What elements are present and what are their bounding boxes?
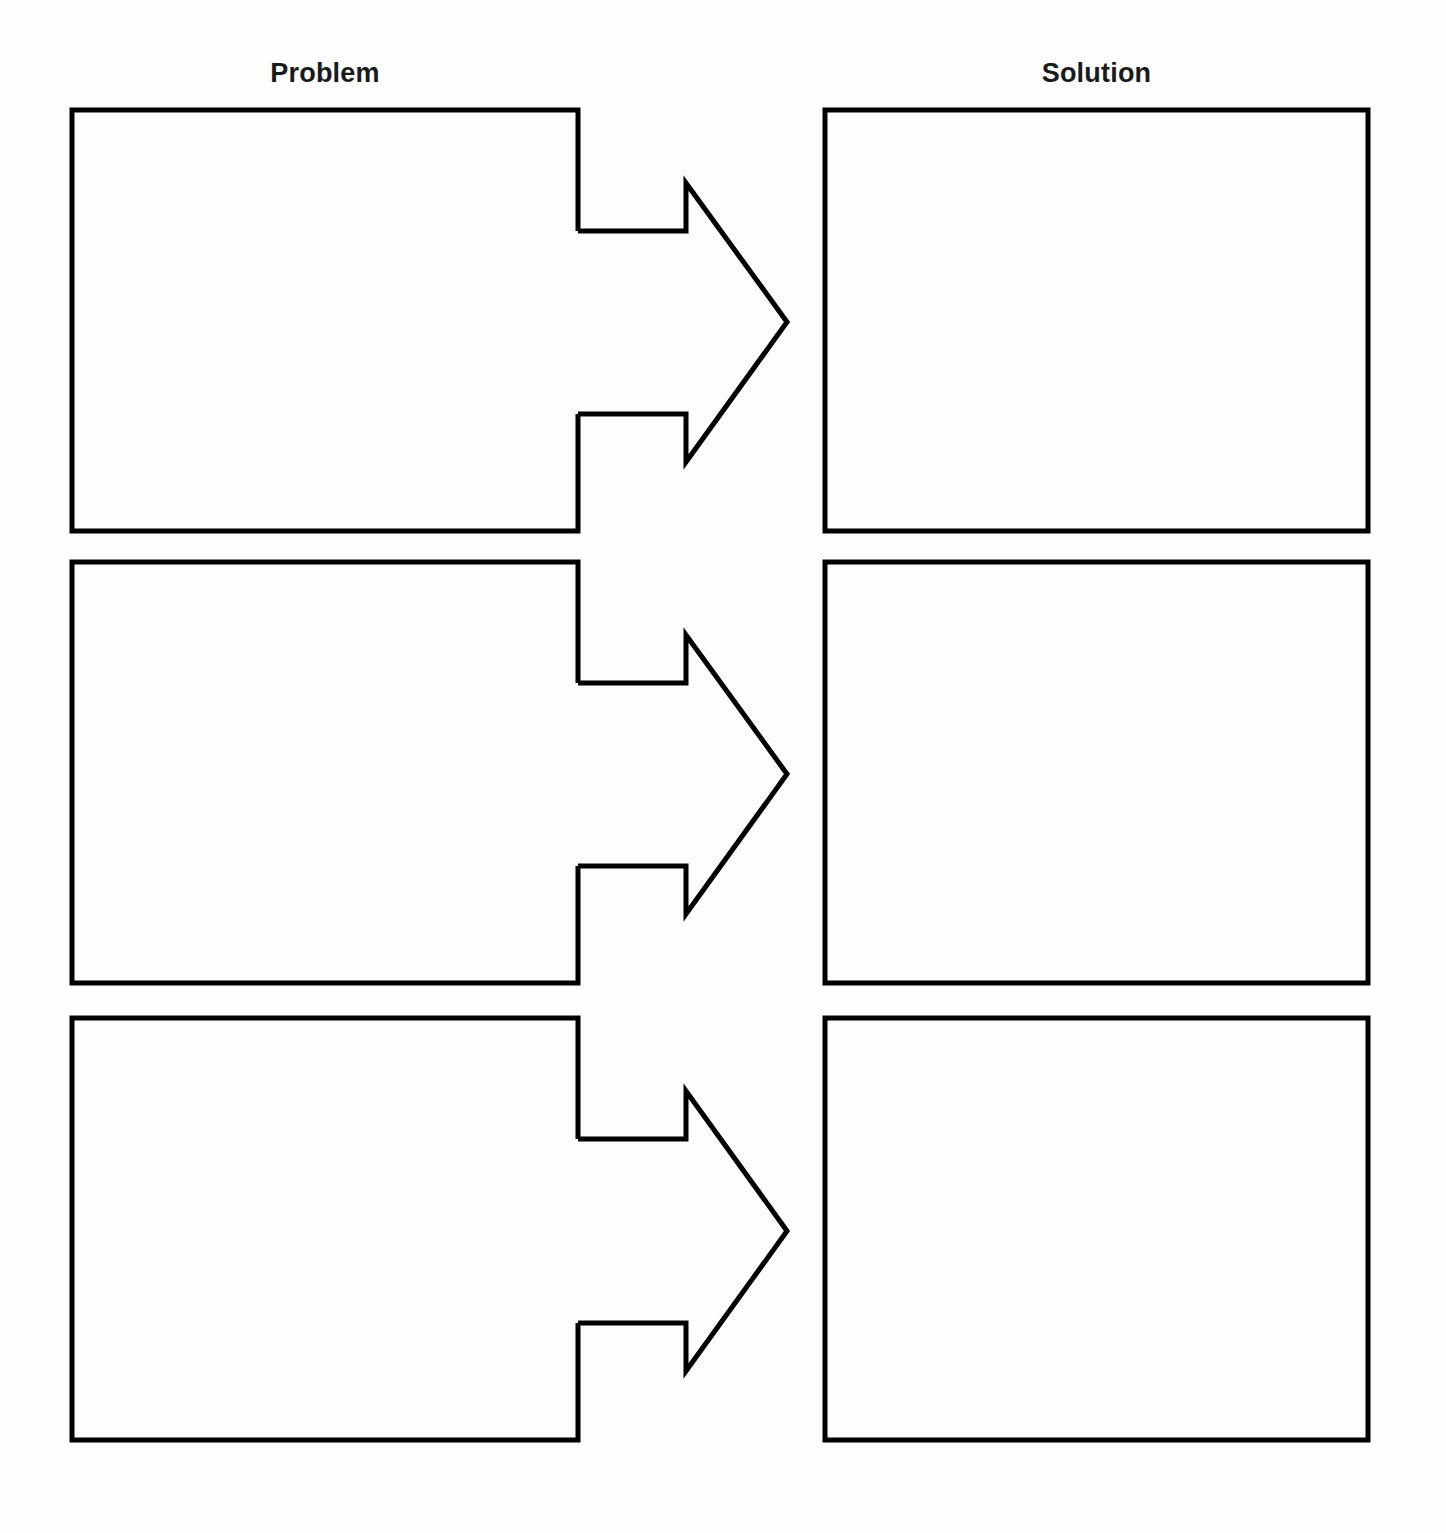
problem-text-2[interactable]: [72, 562, 578, 983]
arrow-1: [578, 183, 787, 462]
worksheet-canvas: Problem Solution: [0, 0, 1446, 1533]
solution-text-2[interactable]: [825, 562, 1368, 983]
arrow-2: [578, 635, 787, 914]
arrow-3: [578, 1091, 787, 1371]
solution-text-1[interactable]: [825, 110, 1368, 531]
problem-text-1[interactable]: [72, 110, 578, 531]
column-header-problem: Problem: [72, 60, 578, 87]
solution-text-3[interactable]: [825, 1018, 1368, 1440]
column-header-solution: Solution: [825, 60, 1368, 87]
problem-text-3[interactable]: [72, 1018, 578, 1440]
